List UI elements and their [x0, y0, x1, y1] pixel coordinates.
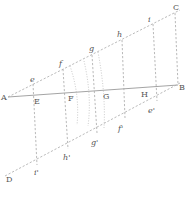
- label-E: E: [34, 97, 40, 106]
- geometry-diagram: A B C D E F G H e f g h i i' h' g' f' e': [0, 0, 190, 200]
- label-F: F: [68, 94, 74, 103]
- label-B: B: [179, 83, 185, 92]
- label-H: H: [141, 90, 148, 99]
- label-f-upper: f: [58, 59, 64, 68]
- transversal-g-g: [92, 55, 97, 133]
- label-G: G: [103, 92, 109, 101]
- label-g-lower: g': [91, 138, 98, 147]
- label-D: D: [6, 175, 12, 184]
- line-AB: [8, 85, 178, 97]
- label-C: C: [173, 3, 179, 12]
- transversal-h-f: [122, 40, 125, 118]
- label-i-upper: i: [148, 15, 151, 24]
- label-A: A: [0, 93, 7, 102]
- label-e-upper: e: [30, 75, 35, 84]
- transversal-f-h: [63, 69, 68, 149]
- arc-2: [84, 61, 89, 126]
- transversal-i-e: [153, 24, 157, 101]
- line-DB: [5, 83, 180, 176]
- label-i-lower: i': [34, 168, 39, 177]
- label-g-upper: g: [89, 44, 94, 53]
- label-e-lower: e': [148, 106, 155, 115]
- label-h-upper: h: [117, 30, 122, 39]
- label-f-lower: f': [117, 124, 123, 133]
- label-h-lower: h': [63, 153, 70, 162]
- transversal-C-B: [175, 13, 178, 85]
